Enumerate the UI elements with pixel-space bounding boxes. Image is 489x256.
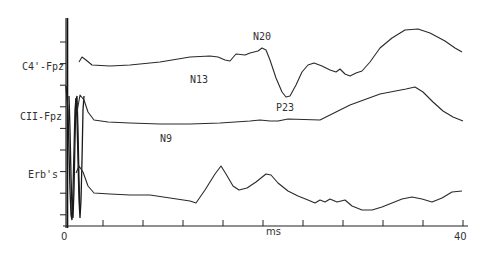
peak-label-p23: P23 bbox=[276, 102, 294, 113]
x-axis-label: ms bbox=[266, 226, 281, 237]
stimulus-artifact bbox=[66, 86, 84, 220]
evoked-potential-chart: 0 40 ms C4'-Fpz CII-Fpz Erb's N20 P23 N1… bbox=[0, 0, 489, 256]
x-tick-label-40: 40 bbox=[454, 231, 467, 242]
peak-label-n9: N9 bbox=[160, 133, 172, 144]
series-label-c4-fpz: C4'-Fpz bbox=[22, 61, 64, 72]
series-line-erb-s bbox=[76, 166, 462, 210]
peak-label-n20: N20 bbox=[253, 31, 271, 42]
series-group bbox=[76, 29, 463, 210]
peak-label-n13: N13 bbox=[190, 74, 208, 85]
x-tick-label-0: 0 bbox=[61, 231, 67, 242]
series-line-cii-fpz bbox=[77, 87, 463, 124]
series-label-erbs: Erb's bbox=[28, 169, 58, 180]
series-label-cii-fpz: CII-Fpz bbox=[20, 111, 62, 122]
x-ticks bbox=[103, 220, 463, 226]
axes: 0 40 ms bbox=[60, 18, 468, 242]
